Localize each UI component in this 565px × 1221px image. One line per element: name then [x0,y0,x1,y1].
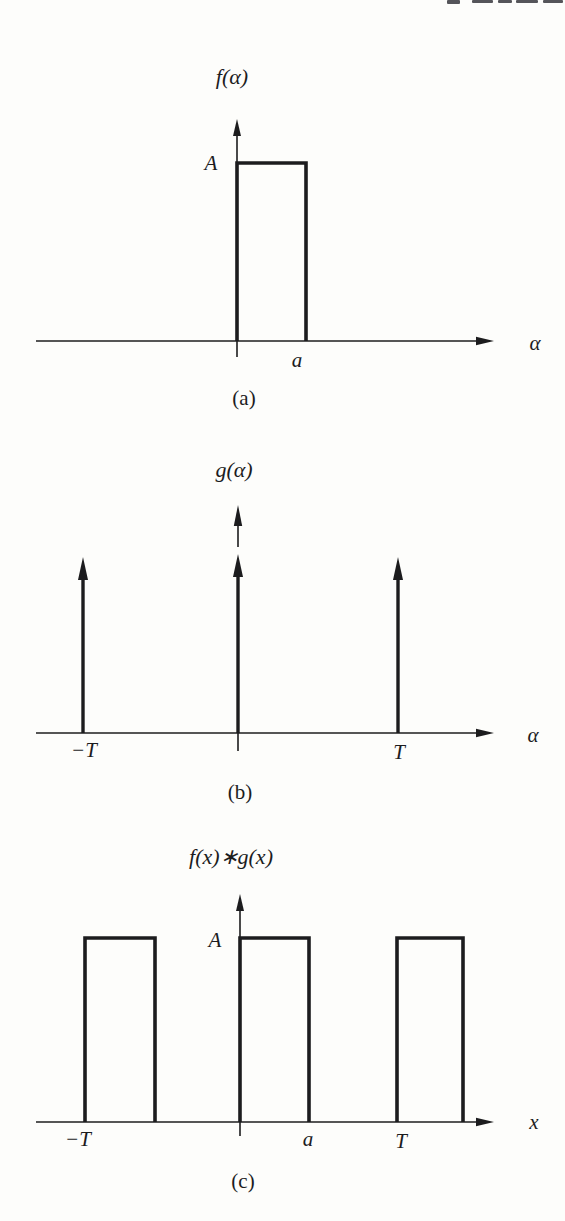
text-fragment-mark [498,0,512,3]
panel-b-axis-label: α [527,723,539,747]
panel-b-x-axis-arrowhead-icon [476,729,494,737]
panel-b-title: g(α) [215,457,252,482]
panel-c-caption: (c) [231,1169,254,1193]
panel-b-impulse-right-arrowhead-icon [393,557,403,580]
panel-c-x-axis-arrowhead-icon [476,1118,494,1126]
panel-c-y-axis-arrowhead-icon [236,894,244,911]
panel-a-y-axis-arrowhead-icon [233,119,241,136]
panel-c-tick-t-label: T [395,1129,408,1153]
panel-b: g(α) −T T α (b) [36,457,539,804]
panel-b-caption: (b) [228,780,253,804]
cropped-page-header-fragment [447,0,563,4]
convolution-figure: f(α) A a α (a) g(α) −T T α [0,0,565,1221]
panel-a-caption: (a) [232,386,255,410]
panel-a: f(α) A a α (a) [36,64,541,410]
panel-b-y-axis-arrowhead-icon [234,505,242,526]
panel-c-axis-label: x [528,1110,539,1134]
panel-b-tick-t-label: T [393,740,406,764]
panel-c-pulse-left [85,938,155,1122]
panel-b-impulse-left-arrowhead-icon [78,557,88,580]
panel-a-amplitude-label: A [203,151,218,175]
panel-b-tick-minus-t-label: −T [71,738,98,762]
text-fragment-mark [447,0,460,4]
panel-a-title: f(α) [216,64,248,89]
panel-c-pulse-right [397,938,463,1122]
panel-c-tick-a-label: a [303,1127,314,1151]
panel-c-amplitude-label: A [207,928,222,952]
panel-a-rect-pulse [237,163,306,341]
panel-c-title: f(x)∗g(x) [189,844,273,869]
panel-a-axis-label: α [529,331,541,355]
panel-c-tick-minus-t-label: −T [65,1127,92,1151]
panel-c: f(x)∗g(x) A −T a T x (c) [36,844,539,1193]
text-fragment-mark [543,0,563,3]
panel-a-tick-a-label: a [292,348,303,372]
panel-a-x-axis-arrowhead-icon [476,337,494,345]
text-fragment-mark [472,0,493,3]
panel-c-pulse-center [240,938,309,1122]
panel-b-impulse-0-arrowhead-icon [233,554,243,577]
text-fragment-mark [516,0,538,3]
